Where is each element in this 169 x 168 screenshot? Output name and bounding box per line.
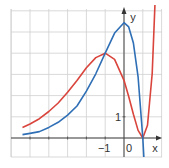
x-axis-label: x xyxy=(152,142,158,154)
x-tick-label: −1 xyxy=(98,142,111,154)
x-axis-arrow-icon xyxy=(156,136,162,141)
labels: −101xy xyxy=(98,11,158,154)
y-axis-label: y xyxy=(130,11,136,23)
x-tick-label: 0 xyxy=(126,142,132,154)
y-tick-label: 1 xyxy=(115,111,121,123)
red-curve xyxy=(22,0,159,138)
series xyxy=(22,0,159,168)
chart: −101xy xyxy=(0,0,169,168)
